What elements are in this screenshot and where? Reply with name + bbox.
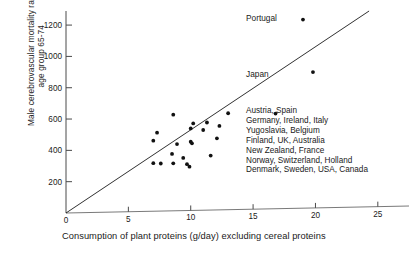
- data-point: [189, 127, 193, 131]
- y-axis-label: Male cerebrovascular mortality rates, ag…: [26, 0, 46, 146]
- x-axis-label: Consumption of plant proteins (g/day) ex…: [62, 231, 326, 241]
- y-tick-label: 600: [48, 115, 62, 124]
- country-list-line: Denmark, Sweden, USA, Canada: [246, 165, 368, 175]
- data-point: [209, 154, 213, 158]
- data-point: [215, 136, 219, 140]
- x-tick-label: 25: [373, 210, 383, 219]
- x-tick-label: 15: [249, 212, 259, 221]
- data-point: [218, 124, 222, 128]
- y-axis-ticks: 20040060080010001200: [44, 21, 72, 187]
- annotation-japan: Japan: [246, 69, 269, 79]
- data-point: [190, 141, 194, 145]
- annotation-portugal: Portugal: [246, 13, 277, 23]
- data-point: [311, 70, 315, 74]
- data-point: [301, 18, 305, 22]
- scatter-plot-figure: 20040060080010001200 0510152025 Male cer…: [0, 0, 415, 253]
- y-tick-label: 800: [48, 84, 62, 93]
- data-point: [175, 142, 179, 146]
- data-point: [226, 111, 230, 115]
- data-point: [191, 122, 195, 126]
- x-axis-ticks: 0510152025: [64, 202, 383, 225]
- x-tick-label: 20: [311, 211, 321, 220]
- country-list-line: Finland, UK, Australia: [246, 136, 368, 146]
- x-axis-line: [66, 206, 409, 213]
- data-point: [151, 139, 155, 143]
- y-axis-label-line-1: Male cerebrovascular mortality rates,: [26, 0, 36, 146]
- data-point: [159, 162, 163, 166]
- x-tick-label: 5: [126, 215, 131, 224]
- x-tick-label: 10: [186, 213, 196, 222]
- country-list-line: New Zealand, France: [246, 146, 368, 156]
- y-axis-label-line-2: age group 65-74: [36, 0, 46, 146]
- country-list-line: Germany, Ireland, Italy: [246, 116, 368, 126]
- data-point: [170, 152, 174, 156]
- country-list-line: Yugoslavia, Belgium: [246, 126, 368, 136]
- x-tick-label: 0: [64, 216, 69, 225]
- y-tick-label: 1200: [44, 21, 63, 30]
- data-point: [181, 156, 185, 160]
- data-point: [151, 161, 155, 165]
- data-point: [201, 128, 205, 132]
- data-point: [155, 131, 159, 135]
- y-tick-label: 200: [48, 178, 62, 187]
- country-list-line: Austria, Spain: [246, 106, 368, 116]
- country-list: Austria, SpainGermany, Ireland, ItalyYug…: [246, 106, 368, 175]
- data-point: [205, 121, 209, 125]
- y-tick-label: 1000: [44, 52, 63, 61]
- country-list-line: Norway, Switzerland, Holland: [246, 156, 368, 166]
- data-point: [171, 113, 175, 117]
- data-point: [171, 161, 175, 165]
- y-tick-label: 400: [48, 146, 62, 155]
- data-point: [188, 165, 192, 169]
